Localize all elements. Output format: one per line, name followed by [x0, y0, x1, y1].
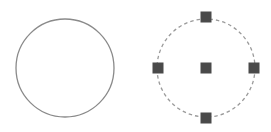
- diagram-canvas: [0, 0, 271, 132]
- plain-circle[interactable]: [16, 19, 114, 117]
- selected-circle[interactable]: [153, 12, 260, 124]
- bottom-quadrant-grip-icon[interactable]: [201, 113, 212, 124]
- top-quadrant-grip-icon[interactable]: [201, 12, 212, 23]
- right-quadrant-grip-icon[interactable]: [249, 63, 260, 74]
- center-grip-icon[interactable]: [201, 63, 212, 74]
- left-quadrant-grip-icon[interactable]: [153, 63, 164, 74]
